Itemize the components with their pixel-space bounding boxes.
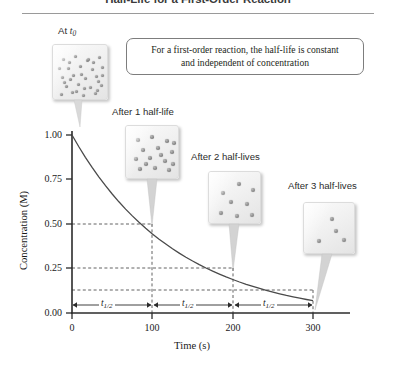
ytick-label-0: 0.00 — [24, 307, 62, 318]
ytick-label-050: 0.50 — [24, 218, 62, 229]
half-life-span-3-sub: 1/2 — [266, 302, 275, 310]
ytick-label-025: 0.25 — [24, 262, 62, 273]
half-life-span-label-2: t1/2 — [180, 298, 196, 310]
ytick-label-075: 0.75 — [24, 173, 62, 184]
half-life-span-1-sub: 1/2 — [104, 302, 113, 310]
xtick-label-100: 100 — [138, 322, 166, 333]
xtick-label-0: 0 — [58, 322, 86, 333]
x-axis-label: Time (s) — [132, 340, 252, 351]
half-life-span-label-1: t1/2 — [99, 298, 115, 310]
pointer-cones — [74, 100, 332, 310]
axis-lines — [66, 131, 350, 319]
decay-curve — [72, 135, 313, 301]
ytick-label-1: 1.00 — [24, 129, 62, 140]
half-life-span-2-sub: 1/2 — [185, 302, 194, 310]
y-axis-label: Concentration (M) — [18, 191, 29, 270]
half-life-span-label-3: t1/2 — [261, 298, 277, 310]
xtick-label-300: 300 — [299, 322, 327, 333]
xtick-label-200: 200 — [219, 322, 247, 333]
